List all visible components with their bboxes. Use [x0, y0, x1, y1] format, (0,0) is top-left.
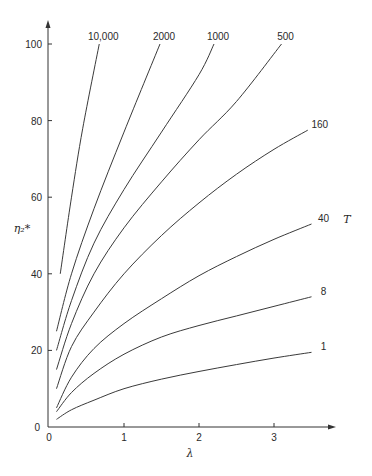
curve-T-8	[57, 297, 312, 412]
curve-label: 2000	[153, 31, 176, 42]
y-tick-label: 100	[25, 39, 42, 50]
y-axis-arrow-icon	[46, 20, 51, 28]
x-tick-label: 0	[46, 432, 52, 443]
legend-title: T	[343, 213, 352, 226]
curve-T-40	[57, 224, 312, 408]
chart: 020406080100 0123 18401605001000200010,0…	[0, 0, 372, 476]
x-axis-label: λ	[186, 447, 194, 460]
curve-T-500	[57, 44, 282, 370]
curve-label: 1000	[207, 31, 230, 42]
curve-label: 8	[321, 286, 327, 297]
curve-T-2000	[57, 44, 161, 331]
curves	[57, 44, 312, 419]
x-tick-label: 2	[196, 432, 202, 443]
x-axis-arrow-icon	[328, 425, 336, 430]
x-ticks: 0123	[46, 423, 277, 443]
curve-label: 160	[311, 119, 328, 130]
y-tick-label: 40	[31, 269, 43, 280]
curve-T-10000	[60, 44, 99, 274]
x-tick-label: 1	[121, 432, 127, 443]
curve-label: 40	[318, 213, 330, 224]
curve-T-1	[57, 352, 312, 419]
curve-labels: 18401605001000200010,000	[88, 31, 330, 352]
y-tick-label: 80	[31, 116, 43, 127]
curve-T-1000	[57, 44, 215, 350]
curve-label: 1	[321, 341, 327, 352]
curve-label: 10,000	[88, 31, 119, 42]
curve-T-160	[57, 130, 308, 389]
x-tick-label: 3	[271, 432, 277, 443]
y-tick-label: 60	[31, 192, 43, 203]
y-tick-label: 0	[34, 422, 40, 433]
y-axis-label: η₂*	[14, 222, 31, 235]
curve-label: 500	[277, 31, 294, 42]
axes	[46, 20, 337, 430]
y-tick-label: 20	[31, 345, 43, 356]
